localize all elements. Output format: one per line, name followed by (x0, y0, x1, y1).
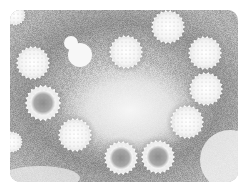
virus-particle (165, 100, 208, 143)
virus-particle (99, 136, 142, 179)
virus-particle (104, 30, 147, 73)
virus-micrograph (10, 10, 238, 182)
virus-particle (20, 80, 66, 126)
debris-blob (64, 36, 78, 50)
virus-particle (136, 135, 179, 178)
micrograph-frame (10, 10, 238, 182)
virus-particle (53, 113, 96, 156)
virus-particle (11, 41, 54, 84)
